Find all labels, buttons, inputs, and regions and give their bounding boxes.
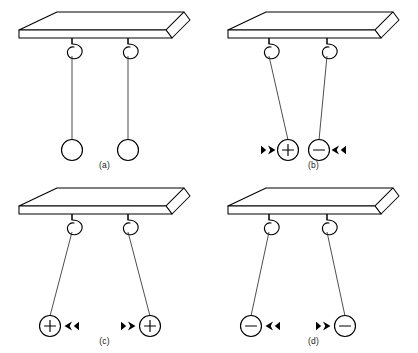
hook-left (264, 214, 279, 235)
hook-left (264, 38, 279, 59)
string-right (319, 56, 327, 140)
string-right (128, 232, 150, 316)
ball-right (309, 140, 330, 161)
force-arrow-right (316, 321, 331, 330)
force-arrow-left (266, 321, 281, 330)
panel-c-caption: (c) (0, 336, 209, 346)
ball-left (241, 316, 262, 337)
ball-left (278, 140, 299, 161)
hook-right (322, 38, 337, 59)
string-left (251, 232, 269, 316)
hook-right (123, 214, 138, 235)
force-arrow-left (261, 145, 276, 154)
panel-c-illustration (0, 176, 209, 352)
force-arrow-right (332, 145, 347, 154)
panel-c: (c) (0, 176, 209, 352)
panel-b: (b) (209, 0, 418, 176)
hook-left (67, 214, 82, 235)
panel-a-illustration (0, 0, 209, 176)
force-arrow-left (65, 321, 80, 330)
string-right (327, 232, 345, 316)
panel-d-caption: (d) (209, 336, 418, 346)
ball-right (118, 140, 139, 161)
hook-left (67, 38, 82, 59)
string-left (50, 232, 72, 316)
shelf (19, 188, 190, 214)
string-left (269, 56, 288, 140)
shelf (19, 12, 190, 38)
hook-right (123, 38, 138, 59)
ball-right (335, 316, 356, 337)
figure-root: (a) (0, 0, 418, 353)
ball-left (40, 316, 61, 337)
ball-right (140, 316, 161, 337)
panel-b-caption: (b) (209, 160, 418, 170)
panel-a: (a) (0, 0, 209, 176)
panel-d: (d) (209, 176, 418, 352)
force-arrow-right (121, 321, 136, 330)
shelf (228, 12, 399, 38)
panel-d-illustration (209, 176, 418, 352)
hook-right (322, 214, 337, 235)
ball-left (62, 140, 83, 161)
panel-b-illustration (209, 0, 418, 176)
shelf (228, 188, 399, 214)
panel-a-caption: (a) (0, 160, 209, 170)
